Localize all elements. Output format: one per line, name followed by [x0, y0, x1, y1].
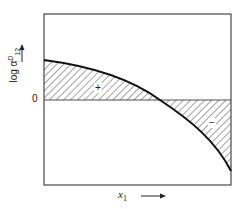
- y-tick-zero: 0: [32, 93, 38, 104]
- x-arrow-icon: [160, 194, 166, 199]
- y-axis-label: log αD12: [4, 30, 24, 110]
- plus-annotation: +: [94, 83, 102, 93]
- negative-region: [160, 100, 231, 171]
- x-axis-label: x1: [118, 188, 127, 203]
- positive-region: [44, 60, 160, 100]
- chart-canvas: [0, 0, 243, 209]
- minus-annotation: −: [208, 118, 216, 128]
